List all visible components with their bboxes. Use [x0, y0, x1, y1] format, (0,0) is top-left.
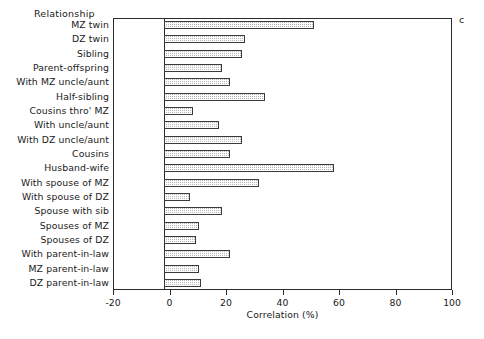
bar: [164, 250, 230, 258]
category-label: With spouse of MZ: [5, 177, 113, 188]
x-axis-tick-label: 80: [390, 297, 402, 308]
bar: [164, 164, 334, 172]
bar-chart-figure: Relationship c MZ twinDZ twinSiblingPare…: [0, 0, 484, 339]
category-label: Cousins thro' MZ: [5, 105, 113, 116]
category-label: With parent-in-law: [5, 248, 113, 259]
bar: [164, 265, 199, 273]
bar: [164, 21, 314, 29]
category-label: Cousins: [5, 148, 113, 159]
bar: [164, 107, 193, 115]
category-label: With MZ uncle/aunt: [5, 76, 113, 87]
bars-layer: [164, 18, 452, 290]
x-axis-tick-label: 0: [167, 297, 173, 308]
category-label: Husband-wife: [5, 162, 113, 173]
category-label: Parent-offspring: [5, 62, 113, 73]
bar: [164, 78, 230, 86]
bar: [164, 150, 230, 158]
category-label: DZ twin: [5, 33, 113, 44]
x-axis-tick: [396, 290, 397, 295]
x-axis-tick-label: 20: [220, 297, 232, 308]
x-axis-tick-label: 60: [333, 297, 345, 308]
x-axis-tick: [113, 290, 114, 295]
category-label: Spouse with sib: [5, 205, 113, 216]
x-axis-tick: [283, 290, 284, 295]
category-label: With spouse of DZ: [5, 191, 113, 202]
bar: [164, 93, 265, 101]
bar: [164, 50, 242, 58]
x-axis-tick: [226, 290, 227, 295]
category-label: With uncle/aunt: [5, 119, 113, 130]
x-axis-tick: [170, 290, 171, 295]
category-label: Sibling: [5, 48, 113, 59]
category-label: Half-sibling: [5, 91, 113, 102]
panel-letter: c: [459, 14, 464, 25]
x-axis-tick-label: -20: [105, 297, 120, 308]
bar: [164, 193, 190, 201]
bar: [164, 136, 242, 144]
category-label: With DZ uncle/aunt: [5, 134, 113, 145]
category-label: MZ parent-in-law: [5, 263, 113, 274]
category-label: DZ parent-in-law: [5, 277, 113, 288]
x-axis-tick-label: 40: [277, 297, 289, 308]
bar: [164, 121, 219, 129]
bar: [164, 279, 201, 287]
bar: [164, 236, 196, 244]
category-label: MZ twin: [5, 19, 113, 30]
bar: [164, 222, 199, 230]
bar: [164, 207, 222, 215]
category-label: Spouses of DZ: [5, 234, 113, 245]
x-axis-tick: [339, 290, 340, 295]
bar: [164, 35, 245, 43]
category-label: Spouses of MZ: [5, 220, 113, 231]
bar: [164, 179, 259, 187]
x-axis-title: Correlation (%): [113, 309, 452, 320]
category-label-column: MZ twinDZ twinSiblingParent-offspringWit…: [0, 18, 113, 290]
bar: [164, 64, 222, 72]
x-axis-tick: [452, 290, 453, 295]
x-axis-tick-label: 100: [443, 297, 461, 308]
